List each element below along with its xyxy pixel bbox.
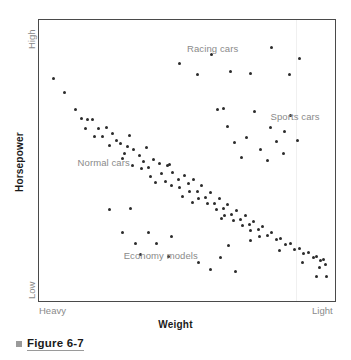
data-point [183,174,186,177]
data-point [232,219,235,222]
x-axis-heavy-label: Heavy [39,305,66,316]
data-point [132,148,135,151]
data-point [227,244,230,247]
data-point [220,217,223,220]
data-point [259,148,262,151]
square-bullet-icon [16,341,22,347]
data-point [249,229,252,232]
data-point [191,201,194,204]
data-point [240,156,243,159]
data-point [257,228,260,231]
data-point [170,235,173,238]
data-point [230,213,233,216]
data-point [218,197,221,200]
data-point [222,207,225,210]
data-point [108,208,111,211]
data-point [123,152,126,155]
data-point [241,224,244,227]
data-point [164,180,167,183]
data-point [270,46,273,49]
data-point [324,263,327,266]
figure-caption-text: Figure 6-7 [27,337,84,351]
data-point [216,108,219,111]
data-point [248,223,251,226]
data-point [147,166,150,169]
data-point [160,172,163,175]
data-point [52,77,55,80]
data-point [119,142,122,145]
data-point [219,256,222,259]
data-point [177,178,180,181]
data-point [249,239,252,242]
data-point [108,144,111,147]
data-point [134,242,137,245]
data-point [155,242,158,245]
data-point [302,252,305,255]
data-point [93,135,96,138]
data-point [206,202,209,205]
data-point [226,203,229,206]
data-point [128,134,131,137]
data-point [140,167,143,170]
data-point [204,196,207,199]
annotation-sports-cars: Sports cars [271,111,320,122]
data-point [86,118,89,121]
data-point [301,261,304,264]
annotation-economy-models: Economy models [124,250,198,261]
data-point [282,152,285,155]
data-point [196,73,199,76]
data-point [252,220,255,223]
data-point [138,154,141,157]
data-point [147,231,150,234]
data-point [197,261,200,264]
data-point [249,72,252,75]
data-point [171,171,174,174]
annotation-normal-cars: Normal cars [78,157,130,168]
data-point [325,275,328,278]
data-point [178,62,181,65]
data-point [278,249,281,252]
y-axis-high-label: High [26,29,37,49]
data-point [84,127,87,130]
data-point [284,243,287,246]
data-point [142,160,145,163]
figure-container: High Low Horsepower Racing cars Sports c… [0,0,351,360]
data-point [80,117,83,120]
data-point [239,218,242,221]
data-point [91,118,94,121]
data-point [226,125,229,128]
data-point [178,186,181,189]
data-point [154,181,157,184]
data-point [213,202,216,205]
data-point [101,135,104,138]
data-point [197,197,200,200]
data-point [196,190,199,193]
data-point [222,107,225,110]
data-point [105,126,108,129]
data-point [129,207,132,210]
data-point [229,70,232,73]
data-point [245,136,248,139]
y-axis-low-label: Low [26,282,37,299]
data-point [322,258,325,261]
data-point [200,184,203,187]
x-axis-light-label: Light [312,305,333,316]
data-point [261,225,264,228]
data-point [234,270,237,273]
data-point [131,164,134,167]
data-point [215,208,218,211]
figure-caption: Figure 6-7 [16,337,84,351]
data-point [318,266,321,269]
data-point [187,182,190,185]
data-point [233,141,236,144]
data-point [266,234,269,237]
data-point [296,139,299,142]
data-point [149,175,152,178]
data-point [275,140,278,143]
x-axis-title: Weight [0,319,351,330]
data-point [289,242,292,245]
data-point [307,251,310,254]
data-point [315,275,318,278]
data-point [126,145,129,148]
data-point [283,130,286,133]
